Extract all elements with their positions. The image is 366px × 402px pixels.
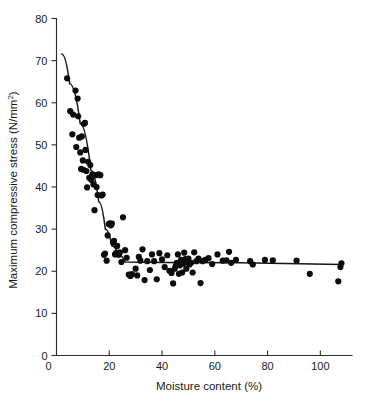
y-axis-title: Maximum compressive stress (N/mm2) [6, 91, 19, 289]
data-point [124, 255, 130, 261]
y-axis-title-main: Maximum compressive stress (N/mm [7, 100, 19, 289]
data-point [104, 258, 110, 264]
data-point [335, 278, 341, 284]
data-point [338, 260, 344, 266]
data-point [151, 258, 157, 264]
x-tick-label: 80 [261, 360, 273, 372]
data-point [139, 246, 145, 252]
data-point [75, 113, 81, 119]
x-tick-label: 20 [103, 360, 115, 372]
y-tick-label: 60 [35, 97, 47, 109]
y-tick-labels: 01020304050607080 [35, 13, 47, 362]
data-point [190, 269, 196, 275]
data-point [159, 256, 165, 262]
data-point [175, 251, 181, 257]
data-point [214, 251, 220, 257]
x-tick-label: 0 [45, 360, 51, 372]
data-point [122, 247, 128, 253]
y-tick-label: 20 [35, 265, 47, 277]
data-point [129, 271, 135, 277]
x-tick-labels: 020406080100 [45, 360, 329, 372]
data-point [197, 280, 203, 286]
data-point [156, 250, 162, 256]
data-point [133, 266, 139, 272]
data-point [233, 257, 239, 263]
y-tick-label: 30 [35, 223, 47, 235]
data-point [170, 280, 176, 286]
data-point [191, 249, 197, 255]
data-point [188, 260, 194, 266]
data-point [209, 261, 215, 267]
data-point [79, 133, 85, 139]
data-point [72, 87, 78, 93]
axes-group [57, 19, 353, 356]
data-point [82, 120, 88, 126]
data-point [117, 249, 123, 255]
x-tick-label: 100 [311, 360, 329, 372]
data-point [205, 255, 211, 261]
y-tick-label: 40 [35, 181, 47, 193]
data-point [91, 207, 97, 213]
data-point [262, 257, 268, 263]
data-point [105, 232, 111, 238]
fit-curve-group [62, 54, 342, 265]
data-point [134, 272, 140, 278]
data-point [154, 276, 160, 282]
data-point [164, 252, 170, 258]
data-point [149, 251, 155, 257]
data-point [137, 258, 143, 264]
data-point [109, 221, 115, 227]
x-tick-label: 40 [156, 360, 168, 372]
data-point [64, 75, 70, 81]
data-point [181, 250, 187, 256]
y-tick-label: 10 [35, 307, 47, 319]
y-axis-title-tail: ) [7, 91, 19, 95]
data-points-group [64, 75, 345, 286]
fitted-trend-line [62, 54, 342, 265]
data-point [118, 259, 124, 265]
data-point [144, 258, 150, 264]
data-point [73, 144, 79, 150]
y-tick-label: 80 [35, 13, 47, 25]
data-point [120, 214, 126, 220]
data-point [270, 257, 276, 263]
data-point [97, 172, 103, 178]
x-tick-label: 60 [209, 360, 221, 372]
data-point [226, 249, 232, 255]
data-point [77, 149, 83, 155]
y-tick-label: 50 [35, 139, 47, 151]
scatter-plot-svg: 01020304050607080 020406080100 Moisture … [0, 0, 366, 402]
y-tick-label: 70 [35, 55, 47, 67]
data-point [250, 261, 256, 267]
data-point [147, 267, 153, 273]
data-point [82, 147, 88, 153]
data-point [94, 184, 100, 190]
data-point [293, 258, 299, 264]
data-point [84, 184, 90, 190]
data-point [87, 162, 93, 168]
data-point [100, 191, 106, 197]
data-point [75, 95, 81, 101]
data-point [142, 277, 148, 283]
chart-figure: 01020304050607080 020406080100 Moisture … [0, 0, 366, 402]
data-point [102, 250, 108, 256]
data-point [80, 157, 86, 163]
x-axis-title: Moisture content (%) [156, 380, 262, 392]
data-point [307, 271, 313, 277]
data-point [69, 131, 75, 137]
data-point [83, 168, 89, 174]
data-point [114, 243, 120, 249]
